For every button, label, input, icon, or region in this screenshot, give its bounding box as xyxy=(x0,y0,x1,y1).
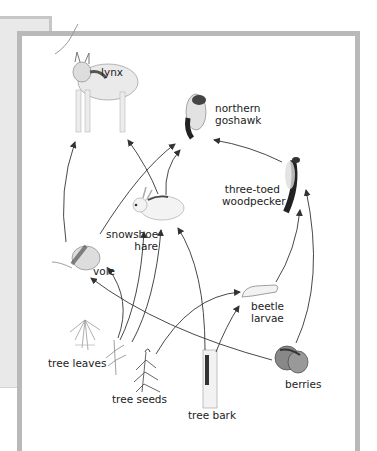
label-tree-bark: tree bark xyxy=(188,409,236,421)
label-line: woodpecker xyxy=(222,195,280,207)
label-line: berries xyxy=(285,378,321,390)
arrow-seeds-to-beetle xyxy=(156,292,240,354)
label-line: tree leaves xyxy=(48,357,106,369)
arrow-bark-to-beetle xyxy=(216,306,239,352)
arrow-leaves-to-vole xyxy=(108,268,123,338)
arrow-vole-to-goshawk xyxy=(100,144,175,234)
label-lynx: lynx xyxy=(101,66,123,78)
label-line: vole xyxy=(93,265,115,277)
label-tree-seeds: tree seeds xyxy=(112,393,167,405)
label-line: goshawk xyxy=(215,114,261,126)
label-line: beetle xyxy=(251,300,284,312)
arrow-woodpecker-to-goshawk xyxy=(214,140,282,162)
label-three-toed-woodpecker: three-toed woodpecker xyxy=(222,183,280,207)
label-northern-goshawk: northern goshawk xyxy=(215,102,261,126)
food-web-arrows xyxy=(63,140,313,360)
tree-bark-icon xyxy=(203,350,217,408)
tree-leaves-sprig-icon xyxy=(106,340,126,375)
arrow-bark-to-hare xyxy=(178,228,205,350)
label-tree-leaves: tree leaves xyxy=(48,357,106,369)
arrow-hare-to-goshawk xyxy=(166,150,180,195)
tree-leaves-icon xyxy=(70,320,100,350)
label-line: hare xyxy=(106,240,158,252)
berries-icon xyxy=(275,346,308,373)
label-line: northern xyxy=(215,102,261,114)
arrow-hare-to-lynx xyxy=(128,140,158,194)
goshawk-icon xyxy=(186,94,206,138)
label-snowshoe-hare: snowshoe hare xyxy=(106,228,158,252)
beetle-larvae-icon xyxy=(242,285,278,297)
lynx-icon xyxy=(73,52,138,132)
arrow-beetle-to-woodpecker xyxy=(276,210,300,282)
label-line: tree bark xyxy=(188,409,236,421)
label-beetle-larvae: beetle larvae xyxy=(251,300,284,324)
arrow-vole-to-lynx xyxy=(63,142,75,242)
label-vole: vole xyxy=(93,265,115,277)
label-line: three-toed xyxy=(222,183,280,195)
tree-seeds-icon xyxy=(134,349,160,392)
squiggle-mark xyxy=(55,24,78,54)
snowshoe-hare-icon xyxy=(133,187,184,220)
label-berries: berries xyxy=(285,378,321,390)
label-line: tree seeds xyxy=(112,393,167,405)
label-line: lynx xyxy=(101,66,123,78)
label-line: larvae xyxy=(251,312,284,324)
label-line: snowshoe xyxy=(106,228,158,240)
woodpecker-icon xyxy=(285,157,300,212)
arrow-berries-to-woodpecker xyxy=(296,190,314,343)
